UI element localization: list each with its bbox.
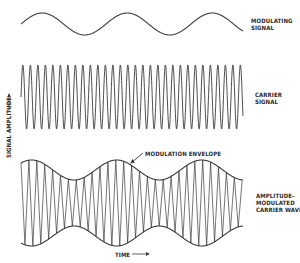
y-axis-label: SIGNAL AMPLITUDE [5, 97, 12, 158]
am-modulation-diagram [0, 0, 300, 263]
am-carrier-wave-label: AMPLITUDE– MODULATED CARRIER WAVE [256, 192, 300, 213]
modulating-signal-wave [21, 13, 243, 35]
modulating-signal-label: MODULATING SIGNAL [251, 17, 293, 31]
am-carrier-wave [21, 160, 242, 246]
envelope-pointer-arrow-icon [131, 153, 143, 163]
modulation-envelope-bottom [21, 226, 243, 246]
modulation-envelope-label: MODULATION ENVELOPE [145, 150, 221, 157]
x-axis-label: TIME [115, 251, 130, 258]
carrier-signal-label: CARRIER SIGNAL [255, 91, 282, 105]
carrier-signal-wave [21, 65, 243, 129]
